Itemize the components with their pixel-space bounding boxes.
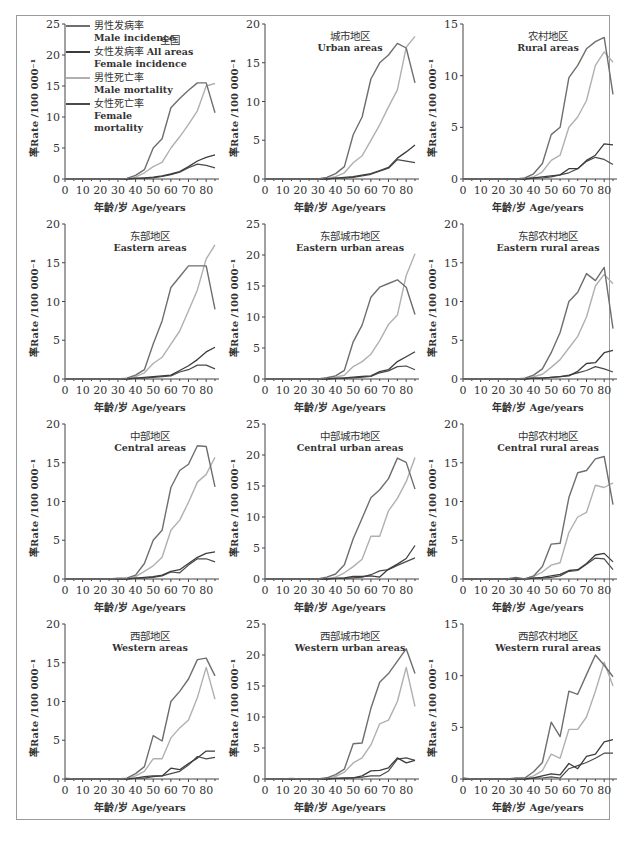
series-line-female-incidence <box>463 350 613 379</box>
x-tick-label: 30 <box>111 584 125 597</box>
y-tick-label: 15 <box>46 657 60 670</box>
y-tick-label: 5 <box>53 334 60 347</box>
y-axis-label: 率Rate /100 000⁻¹ <box>26 458 41 556</box>
x-tick-label: 50 <box>544 184 558 197</box>
chart-title-cn: 农村地区 <box>488 28 608 43</box>
legend-label-cn: 女性死亡率 <box>94 98 187 110</box>
x-tick-label: 30 <box>111 784 125 797</box>
x-tick-label: 0 <box>62 184 69 197</box>
x-tick-label: 40 <box>527 184 541 197</box>
y-tick-label: 25 <box>246 418 260 431</box>
series-line-male-incidence <box>463 267 613 379</box>
x-tick-label: 60 <box>562 784 576 797</box>
y-tick-label: 15 <box>46 257 60 270</box>
x-tick-label: 30 <box>311 784 325 797</box>
x-tick-label: 20 <box>293 584 307 597</box>
legend-label-cn: 男性死亡率 <box>94 72 187 84</box>
x-tick-label: 60 <box>364 184 378 197</box>
chart-title-cn: 东部农村地区 <box>488 228 608 243</box>
x-tick-label: 70 <box>182 184 196 197</box>
x-tick-label: 0 <box>262 184 269 197</box>
y-tick-label: 15 <box>246 680 260 693</box>
x-tick-label: 60 <box>364 784 378 797</box>
y-tick-label: 15 <box>444 18 458 31</box>
chart-title-en: Eastern rural areas <box>478 242 618 253</box>
x-tick-label: 80 <box>199 784 213 797</box>
x-tick-label: 70 <box>580 184 594 197</box>
chart-title-en: Central urban areas <box>280 442 420 453</box>
chart-title-cn: 东部地区 <box>90 228 210 243</box>
y-tick-label: 15 <box>46 80 60 93</box>
legend-label-en: Male incidence <box>94 32 187 44</box>
x-tick-label: 20 <box>491 184 505 197</box>
y-tick-label: 20 <box>246 449 260 462</box>
x-tick-label: 20 <box>491 384 505 397</box>
x-tick-label: 40 <box>129 384 143 397</box>
series-line-female-incidence <box>65 552 215 579</box>
legend-item-male-incidence: 男性发病率Male incidence <box>66 20 187 44</box>
x-tick-label: 50 <box>146 384 160 397</box>
y-tick-label: 0 <box>53 173 60 186</box>
x-tick-label: 20 <box>93 584 107 597</box>
y-tick-label: 5 <box>451 721 458 734</box>
x-tick-label: 10 <box>276 784 290 797</box>
x-tick-label: 70 <box>580 384 594 397</box>
series-line-female-mortality <box>463 558 613 579</box>
x-axis-label: 年龄/岁 Age/years <box>60 799 220 814</box>
x-tick-label: 80 <box>597 584 611 597</box>
y-axis-label: 率Rate /100 000⁻¹ <box>26 258 41 356</box>
y-tick-label: 10 <box>46 696 60 709</box>
y-tick-label: 10 <box>444 496 458 509</box>
series-line-female-mortality <box>265 758 415 779</box>
x-tick-label: 0 <box>62 584 69 597</box>
y-tick-label: 5 <box>53 142 60 155</box>
x-tick-label: 0 <box>262 384 269 397</box>
y-tick-label: 10 <box>444 70 458 83</box>
y-tick-label: 10 <box>246 96 260 109</box>
y-tick-label: 5 <box>53 534 60 547</box>
series-line-male-mortality <box>265 458 415 580</box>
x-tick-label: 20 <box>293 184 307 197</box>
y-tick-label: 20 <box>444 418 458 431</box>
x-tick-label: 50 <box>346 184 360 197</box>
y-tick-label: 0 <box>253 573 260 586</box>
chart-title-cn: 东部城市地区 <box>290 228 410 243</box>
series-line-male-mortality <box>265 36 415 179</box>
x-tick-label: 20 <box>93 384 107 397</box>
x-tick-label: 70 <box>182 584 196 597</box>
series-line-male-mortality <box>463 483 613 579</box>
y-tick-label: 5 <box>253 134 260 147</box>
x-tick-label: 70 <box>382 184 396 197</box>
y-axis-label: 率Rate /100 000⁻¹ <box>226 258 241 356</box>
x-tick-label: 60 <box>562 384 576 397</box>
x-tick-label: 10 <box>76 584 90 597</box>
series-line-male-incidence <box>265 280 415 379</box>
legend-swatch <box>66 51 90 53</box>
series-line-female-incidence <box>265 546 415 580</box>
y-tick-label: 5 <box>451 534 458 547</box>
x-tick-label: 50 <box>544 384 558 397</box>
y-tick-label: 0 <box>253 773 260 786</box>
chart-panel: 05101501020304050607080西部农村地区Western rur… <box>418 612 618 812</box>
y-axis-label: 率Rate /100 000⁻¹ <box>424 458 439 556</box>
y-tick-label: 0 <box>253 173 260 186</box>
x-axis-label: 年龄/岁 Age/years <box>458 799 618 814</box>
x-tick-label: 40 <box>129 184 143 197</box>
series-line-female-incidence <box>463 553 613 579</box>
x-tick-label: 10 <box>276 184 290 197</box>
y-tick-label: 5 <box>451 121 458 134</box>
x-tick-label: 0 <box>262 784 269 797</box>
x-tick-label: 50 <box>146 784 160 797</box>
x-tick-label: 80 <box>199 384 213 397</box>
y-tick-label: 10 <box>46 111 60 124</box>
y-axis-label: 率Rate /100 000⁻¹ <box>424 258 439 356</box>
y-tick-label: 25 <box>246 218 260 231</box>
x-tick-label: 40 <box>129 784 143 797</box>
y-tick-label: 15 <box>246 480 260 493</box>
chart-title-cn: 西部城市地区 <box>290 628 410 643</box>
chart-title-en: Eastern urban areas <box>280 242 420 253</box>
chart-title-en: Central rural areas <box>478 442 618 453</box>
x-tick-label: 40 <box>329 384 343 397</box>
y-tick-label: 0 <box>53 773 60 786</box>
y-axis-label: 率Rate /100 000⁻¹ <box>26 658 41 756</box>
